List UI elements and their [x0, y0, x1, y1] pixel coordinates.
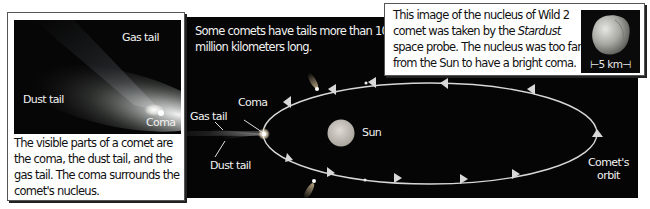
nucleus-caption: This image of the nucleus of Wild 2 come…	[393, 7, 588, 71]
orbit-label-sun: Sun	[362, 126, 381, 139]
photo-caption: The visible parts of a comet are the com…	[14, 135, 184, 199]
orbit-label-coma: Coma	[238, 96, 267, 109]
orbit-label-line1: Comet's	[588, 156, 629, 169]
orbit-label-dust-tail: Dust tail	[210, 159, 251, 172]
stardust-name: Stardust	[518, 24, 561, 38]
nucleus-graphic	[581, 10, 640, 58]
orbit-label-gas-tail: Gas tail	[190, 110, 227, 123]
orbit-label-line2: orbit	[597, 169, 620, 182]
orbit-label-comets-orbit: Comet's orbit	[588, 156, 629, 182]
nucleus-panel: This image of the nucleus of Wild 2 come…	[384, 3, 645, 76]
nucleus-caption-end: space probe. The nucleus was too far fro…	[393, 40, 581, 70]
wild2-nucleus-image: ⊢5 km⊣	[581, 10, 640, 73]
comet-orbit	[263, 83, 597, 184]
comet-photo: Gas tail Dust tail Coma	[14, 20, 181, 134]
scale-bar-label: ⊢5 km⊣	[581, 58, 640, 70]
photo-label-gas-tail: Gas tail	[122, 31, 159, 44]
sun	[328, 120, 355, 147]
photo-label-coma: Coma	[146, 116, 175, 129]
comet-photo-panel: Gas tail Dust tail Coma The visible part…	[7, 12, 185, 201]
photo-label-dust-tail: Dust tail	[23, 93, 64, 106]
